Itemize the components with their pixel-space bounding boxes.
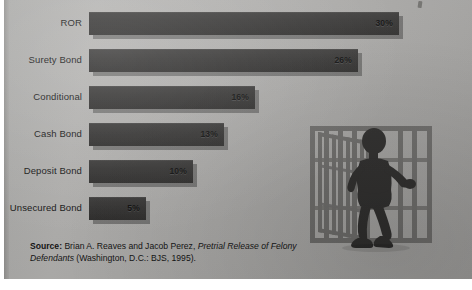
bar-value-ror: 30% <box>375 12 393 35</box>
category-label-unsecured-bond: Unsecured Bond <box>4 193 82 223</box>
figure-container: ROR 30% Surety Bond 26% Conditional <box>0 0 472 290</box>
source-note: Source: Brian A. Reaves and Jacob Perez,… <box>30 240 300 265</box>
figure-shadow <box>342 244 410 252</box>
bar-fill <box>89 12 399 35</box>
scanned-page-panel: ROR 30% Surety Bond 26% Conditional <box>4 0 472 279</box>
category-label-ror: ROR <box>4 8 82 38</box>
source-publication: (Washington, D.C.: BJS, 1995). <box>74 253 196 263</box>
bar-value-surety-bond: 26% <box>334 49 352 72</box>
bar-conditional: 16% <box>89 86 255 109</box>
bar-surety-bond: 26% <box>89 49 358 72</box>
source-authors: Brian A. Reaves and Jacob Perez, <box>62 241 198 251</box>
category-label-conditional: Conditional <box>4 82 82 112</box>
chart-row: Conditional 16% <box>4 82 472 112</box>
bar-value-conditional: 16% <box>231 86 249 109</box>
bar-fill <box>89 49 358 72</box>
inmate-silhouette <box>347 128 416 248</box>
source-label: Source: <box>30 241 62 251</box>
chart-row: ROR 30% <box>4 8 472 38</box>
category-label-surety-bond: Surety Bond <box>4 45 82 75</box>
jail-gate-illustration <box>300 120 442 254</box>
bar-fill <box>89 86 255 109</box>
bar-unsecured-bond: 5% <box>89 197 146 220</box>
bar-value-deposit-bond: 10% <box>169 160 187 183</box>
bar-value-cash-bond: 13% <box>200 123 218 146</box>
bar-ror: 30% <box>89 12 399 35</box>
category-label-deposit-bond: Deposit Bond <box>4 156 82 186</box>
category-label-cash-bond: Cash Bond <box>4 119 82 149</box>
chart-row: Surety Bond 26% <box>4 45 472 75</box>
bar-value-unsecured-bond: 5% <box>127 197 140 220</box>
bar-deposit-bond: 10% <box>89 160 193 183</box>
bar-cash-bond: 13% <box>89 123 224 146</box>
